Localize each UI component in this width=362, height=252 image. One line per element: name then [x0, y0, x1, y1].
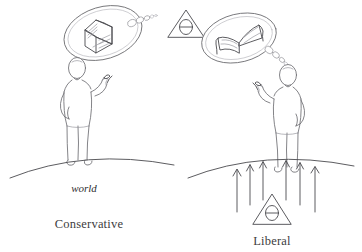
theta-triangle-conservative — [168, 10, 204, 37]
upward-arrow — [247, 165, 254, 206]
world-label: world — [71, 182, 97, 194]
upward-arrow — [283, 161, 290, 201]
panel-conservative: world Conservative — [10, 0, 204, 231]
triangle-outline — [168, 10, 204, 37]
thought-bubble-outline — [57, 0, 149, 70]
person-conservative — [60, 58, 112, 166]
caption-conservative: Conservative — [55, 217, 124, 231]
panel-liberal: Liberal — [188, 6, 354, 248]
ground-curve-liberal — [188, 159, 354, 178]
caption-liberal: Liberal — [253, 234, 291, 248]
thought-bubble-conservative — [57, 0, 149, 70]
upward-arrow — [233, 169, 241, 212]
upward-arrow — [311, 167, 319, 213]
diagram-svg: world Conservative — [0, 0, 362, 252]
triangle-outline — [253, 194, 291, 224]
thought-bubble-outline — [196, 6, 281, 71]
theta-triangle-liberal — [253, 194, 291, 224]
thought-bubble-liberal — [196, 6, 281, 71]
figure-canvas: world Conservative — [0, 0, 362, 252]
upward-arrow — [260, 162, 267, 201]
upward-arrow — [297, 163, 304, 206]
person-liberal — [253, 65, 305, 173]
